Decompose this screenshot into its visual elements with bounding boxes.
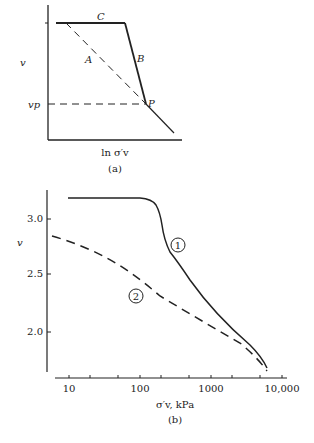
curve-2-label: 2 [133, 291, 139, 302]
x-tick-10000: 10,000 [265, 383, 300, 394]
y-tick-3.0: 3.0 [27, 213, 43, 224]
panel-b-y-label: v [17, 237, 23, 248]
x-tick-1000: 1000 [198, 383, 223, 394]
label-A: A [84, 54, 92, 65]
panel-a: C A B P v vp ln σ′v (a) [20, 5, 182, 174]
y-tick-2.0: 2.0 [27, 326, 43, 337]
label-B: B [136, 53, 144, 64]
panel-b-x-label: σ′v, kPa [156, 399, 194, 410]
panel-a-x-label: ln σ′v [101, 147, 129, 158]
label-P: P [147, 98, 155, 109]
panel-a-caption: (a) [108, 163, 122, 174]
y-tick-2.5: 2.5 [27, 268, 43, 279]
x-tick-100: 100 [130, 383, 149, 394]
panel-b: 3.0 2.5 2.0 v 10 100 1000 10,000 σ′v, kP… [17, 190, 300, 425]
label-C: C [97, 11, 105, 22]
figure: C A B P v vp ln σ′v (a) 3.0 2.5 2.0 v 10… [0, 0, 314, 443]
line-A [66, 23, 146, 104]
panel-b-caption: (b) [168, 414, 182, 425]
x-tick-10: 10 [63, 383, 76, 394]
vp-label: vp [28, 99, 41, 110]
panel-a-y-label: v [20, 57, 26, 68]
curve-2 [52, 236, 267, 371]
curve-1 [68, 198, 267, 368]
curve-1-label: 1 [175, 240, 181, 251]
